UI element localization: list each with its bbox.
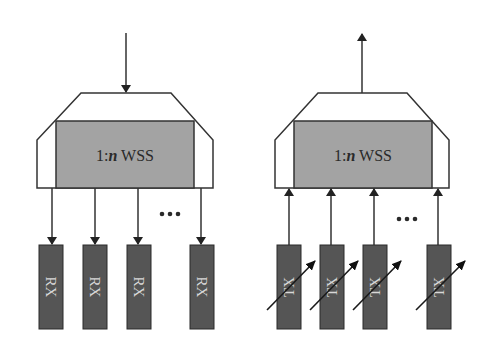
tx-port-2: TX (310, 245, 358, 329)
rx-port-3: RX (127, 245, 151, 329)
wss-diagram: 1:n WSS RX RX RX RX 1:n W (0, 0, 491, 345)
rx-label: RX (194, 277, 210, 298)
rx-label: RX (87, 277, 103, 298)
rx-wss-group: 1:n WSS RX RX RX RX (37, 33, 214, 329)
ellipsis (160, 212, 181, 217)
tx-port-1: TX (267, 245, 315, 329)
rx-port-4: RX (190, 245, 214, 329)
tx-port-4: TX (416, 245, 465, 329)
tx-port-3: TX (353, 245, 401, 329)
rx-label: RX (131, 277, 147, 298)
rx-port-2: RX (83, 245, 107, 329)
rx-label: RX (43, 277, 59, 298)
rx-port-1: RX (39, 245, 63, 329)
wss-label: 1:n WSS (334, 147, 392, 164)
tx-wss-group: 1:n WSS TX TX TX TX (267, 34, 465, 329)
wss-label: 1:n WSS (96, 147, 154, 164)
ellipsis (397, 217, 418, 222)
diagram-canvas: 1:n WSS RX RX RX RX 1:n W (0, 0, 491, 345)
